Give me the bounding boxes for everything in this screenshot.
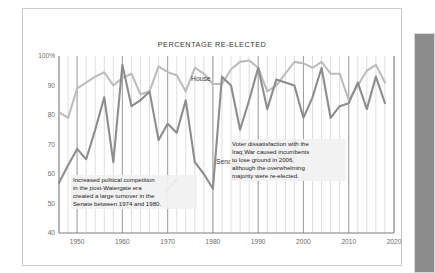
- svg-text:80: 80: [48, 111, 56, 118]
- svg-text:1970: 1970: [160, 238, 175, 245]
- svg-text:40: 40: [48, 229, 56, 236]
- scroll-panel[interactable]: [414, 33, 435, 273]
- svg-text:2020: 2020: [387, 238, 402, 245]
- chart-plot: 405060708090100% 19501960197019801990200…: [22, 8, 402, 266]
- svg-text:90: 90: [48, 82, 56, 89]
- svg-text:1980: 1980: [206, 238, 221, 245]
- x-axis-tick-labels: 19501960197019801990200020102020: [70, 238, 402, 245]
- svg-text:1990: 1990: [251, 238, 266, 245]
- chart-container: PERCENTAGE RE-ELECTED 405060708090100% 1…: [22, 8, 402, 266]
- svg-text:1950: 1950: [70, 238, 85, 245]
- svg-text:1960: 1960: [115, 238, 130, 245]
- svg-text:60: 60: [48, 170, 56, 177]
- y-axis-tick-labels: 405060708090100%: [38, 52, 55, 236]
- svg-text:100%: 100%: [38, 52, 55, 59]
- svg-text:2010: 2010: [341, 238, 356, 245]
- svg-text:50: 50: [48, 200, 56, 207]
- series-label-house: House: [191, 75, 211, 82]
- svg-text:70: 70: [48, 141, 56, 148]
- annotation-watergate: Increased political competition in the p…: [71, 175, 197, 209]
- svg-text:2000: 2000: [296, 238, 311, 245]
- annotation-iraq-war: Voter dissatisfaction with the Iraq War …: [230, 139, 346, 181]
